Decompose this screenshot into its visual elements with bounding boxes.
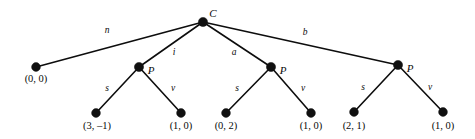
leaf-node-dot xyxy=(439,108,448,117)
tree-canvas xyxy=(0,0,475,139)
tree-edge xyxy=(96,67,139,113)
nonterminal-node-dot xyxy=(198,17,207,26)
tree-edge xyxy=(398,65,443,112)
leaf-node-dot xyxy=(222,109,231,118)
tree-edge xyxy=(203,22,398,65)
leaf-node-dot xyxy=(350,108,359,117)
nonterminal-node-dot xyxy=(134,62,143,71)
tree-edge xyxy=(226,67,271,113)
tree-edge xyxy=(354,65,398,112)
tree-edge xyxy=(139,67,181,113)
leaf-node-dot xyxy=(177,109,186,118)
node-layer xyxy=(32,17,448,117)
nonterminal-node-dot xyxy=(266,62,275,71)
tree-edge xyxy=(271,67,311,113)
leaf-node-dot xyxy=(307,109,316,118)
tree-edge xyxy=(36,22,203,67)
nonterminal-node-dot xyxy=(393,60,402,69)
tree-diagram: niabsvsvsvC(0, 0)PPP(3, –1)(1, 0)(0, 2)(… xyxy=(0,0,475,139)
edge-layer xyxy=(36,22,443,113)
tree-edge xyxy=(139,22,203,67)
leaf-node-dot xyxy=(32,63,41,72)
leaf-node-dot xyxy=(92,109,101,118)
